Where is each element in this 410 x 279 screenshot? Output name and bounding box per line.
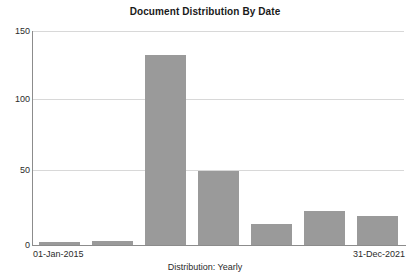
bar-2019[interactable]: [251, 224, 292, 245]
y-axis-tick-labels: 150 100 50 0: [0, 0, 30, 279]
bar-2021[interactable]: [357, 216, 398, 245]
y-tick-label-100: 100: [2, 95, 30, 104]
chart-screenshot: Document Distribution By Date 150 100 50…: [0, 0, 410, 279]
x-axis-end-label: 31-Dec-2021: [353, 249, 405, 259]
x-axis-caption: Distribution: Yearly: [0, 262, 410, 272]
bar-series: [33, 31, 404, 245]
bar-2017[interactable]: [145, 55, 186, 245]
bar-2018[interactable]: [198, 171, 239, 245]
y-tick-label-0: 0: [2, 241, 30, 250]
bar-2015[interactable]: [39, 242, 80, 245]
x-axis-start-label: 01-Jan-2015: [33, 249, 84, 259]
x-axis-line: [32, 245, 406, 246]
bar-2020[interactable]: [304, 211, 345, 245]
chart-title: Document Distribution By Date: [0, 6, 410, 17]
y-tick-label-50: 50: [2, 166, 30, 175]
bar-2016[interactable]: [92, 241, 133, 245]
y-tick-label-150: 150: [2, 27, 30, 36]
